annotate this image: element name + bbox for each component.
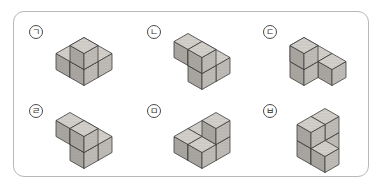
figure-cell-3[interactable]: ㄷ: [253, 17, 371, 100]
cube-figure-figure-g: [19, 17, 137, 100]
cube-figure-figure-d: [253, 17, 371, 100]
figure-cell-1[interactable]: ㄱ: [19, 17, 137, 100]
cube-figure-figure-m: [137, 96, 255, 179]
cube-figure-figure-n: [137, 17, 255, 100]
cube-figure-figure-b: [253, 96, 371, 179]
figure-grid: ㄱ ㄴ ㄷ ㄹ ㅁ ㅂ: [13, 11, 369, 177]
worksheet-canvas: ㄱ ㄴ ㄷ ㄹ ㅁ ㅂ: [0, 0, 383, 190]
figure-cell-6[interactable]: ㅂ: [253, 96, 371, 179]
figure-cell-5[interactable]: ㅁ: [137, 96, 255, 179]
figure-cell-2[interactable]: ㄴ: [137, 17, 255, 100]
figure-cell-4[interactable]: ㄹ: [19, 96, 137, 179]
cube-figure-figure-r: [19, 96, 137, 179]
